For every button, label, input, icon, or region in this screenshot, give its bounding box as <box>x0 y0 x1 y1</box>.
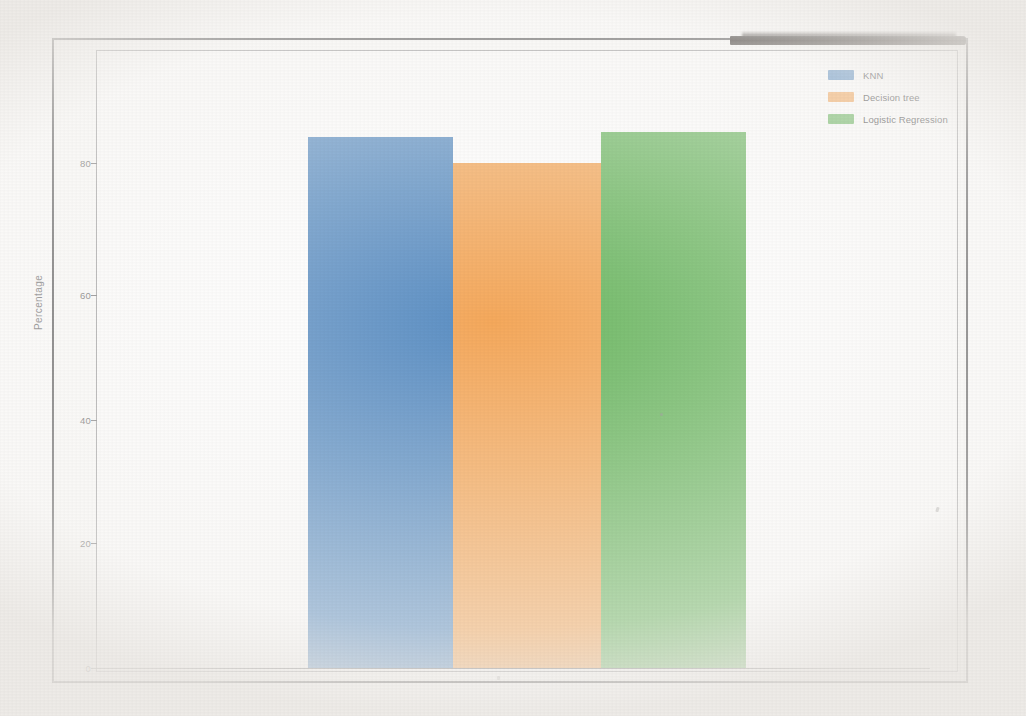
bar-logistic-regression[interactable] <box>601 132 746 668</box>
legend-swatch-icon <box>828 114 854 124</box>
legend-label: Decision tree <box>863 92 920 103</box>
x-axis-line <box>96 668 930 669</box>
chart-plot-area: 0 20 40 60 80 KNN <box>96 50 958 672</box>
y-tick-label-0: 0 <box>86 663 91 674</box>
legend-label: KNN <box>863 70 883 81</box>
y-tick-mark <box>91 668 97 669</box>
legend-swatch-icon <box>828 70 854 80</box>
legend-swatch-icon <box>828 92 854 102</box>
bar-knn[interactable] <box>308 137 453 668</box>
legend-item-decision-tree[interactable]: Decision tree <box>828 86 953 108</box>
y-tick-label-20: 20 <box>80 538 91 549</box>
y-tick-label-40: 40 <box>80 415 91 426</box>
y-tick-label-80: 80 <box>80 158 91 169</box>
scan-speck <box>497 676 500 680</box>
legend-item-logistic-regression[interactable]: Logistic Regression <box>828 108 953 130</box>
bar-decision-tree[interactable] <box>453 163 601 668</box>
y-tick-label-60: 60 <box>80 290 91 301</box>
legend-item-knn[interactable]: KNN <box>828 64 953 86</box>
scan-speck <box>660 413 663 416</box>
chart-legend: KNN Decision tree Logistic Regression <box>828 64 953 130</box>
y-axis-title: Percentage <box>33 275 44 330</box>
legend-label: Logistic Regression <box>863 114 948 125</box>
screenshot-canvas: 0 20 40 60 80 KNN <box>0 0 1026 716</box>
bar-series-layer <box>97 50 930 668</box>
scan-smudge-band <box>730 36 966 45</box>
